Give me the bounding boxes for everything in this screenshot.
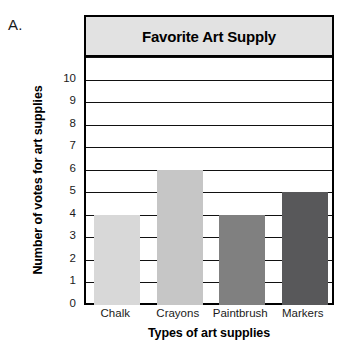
x-axis-tick-label: Crayons bbox=[156, 307, 199, 319]
chart-figure: A. Number of votes for art supplies 0123… bbox=[0, 0, 348, 362]
x-axis-tick-label: Paintbrush bbox=[213, 307, 268, 319]
y-axis-tick-label: 4 bbox=[70, 207, 76, 219]
y-axis-tick-labels: 012345678910 bbox=[52, 55, 80, 305]
y-axis-tick-label: 9 bbox=[70, 94, 76, 106]
figure-letter: A. bbox=[8, 16, 23, 33]
y-axis-tick-label: 7 bbox=[70, 139, 76, 151]
y-axis-tick-label: 0 bbox=[70, 297, 76, 309]
bar-crayons bbox=[157, 170, 203, 305]
plot-area bbox=[86, 57, 332, 305]
x-axis-tick-label: Markers bbox=[282, 307, 324, 319]
x-axis-tick-label: Chalk bbox=[101, 307, 130, 319]
y-axis-tick-label: 2 bbox=[70, 252, 76, 264]
chart-plot-frame: Favorite Art Supply bbox=[84, 15, 334, 305]
bar-markers bbox=[282, 192, 328, 305]
x-axis-title: Types of art supplies bbox=[84, 326, 334, 340]
x-axis-tick-labels: ChalkCrayonsPaintbrushMarkers bbox=[84, 307, 334, 325]
y-axis-tick-label: 1 bbox=[70, 274, 76, 286]
bar-chalk bbox=[94, 215, 140, 305]
y-axis-title-container: Number of votes for art supplies bbox=[28, 55, 48, 305]
y-axis-tick-label: 6 bbox=[70, 162, 76, 174]
y-axis-tick-label: 10 bbox=[63, 72, 76, 84]
bar-paintbrush bbox=[219, 215, 265, 305]
y-axis-tick-label: 5 bbox=[70, 184, 76, 196]
chart-title-band: Favorite Art Supply bbox=[86, 17, 332, 57]
bars-layer bbox=[86, 57, 332, 305]
chart-title: Favorite Art Supply bbox=[142, 28, 276, 45]
y-axis-tick-label: 3 bbox=[70, 229, 76, 241]
y-axis-tick-label: 8 bbox=[70, 117, 76, 129]
y-axis-title: Number of votes for art supplies bbox=[31, 85, 45, 274]
